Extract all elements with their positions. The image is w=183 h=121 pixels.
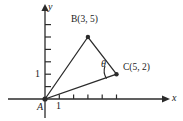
y-axis-label: y [48,2,52,12]
point-a-marker [42,96,47,101]
coordinate-geometry-figure: y x 1 1 A B(3, 5) C(5, 2) θ [0,0,183,121]
x-axis-tick-label-1: 1 [56,101,61,111]
point-c-label: C(5, 2) [123,63,150,73]
x-axis-arrowhead [162,95,170,102]
point-b-label: B(3, 5) [71,15,98,25]
point-b-marker [86,35,90,39]
x-axis-label: x [172,93,176,103]
point-a-label: A [37,102,43,112]
y-axis-tick-label-1: 1 [35,69,40,79]
point-c-marker [114,72,118,76]
x-axis-ticks [59,95,116,100]
y-axis-ticks [45,25,51,87]
angle-theta-label: θ [101,59,106,69]
